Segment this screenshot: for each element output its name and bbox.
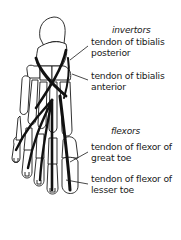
label-flexor-lesser-toe: tendon of flexor of lesser toe — [91, 174, 172, 195]
group-label-invertors: invertors — [112, 25, 150, 35]
label-tibialis-posterior: tendon of tibialis posterior — [91, 37, 165, 58]
label-flexor-lesser-toe-line2: lesser toe — [91, 185, 172, 196]
label-tibialis-anterior: tendon of tibialis anterior — [91, 71, 165, 92]
label-flexor-great-toe: tendon of flexor of great toe — [91, 142, 172, 163]
label-tibialis-posterior-line2: posterior — [91, 48, 165, 59]
label-flexor-great-toe-line2: great toe — [91, 153, 172, 164]
label-tibialis-anterior-line2: anterior — [91, 82, 165, 93]
label-tibialis-posterior-line1: tendon of tibialis — [91, 37, 165, 48]
label-flexor-great-toe-line1: tendon of flexor of — [91, 142, 172, 153]
label-tibialis-anterior-line1: tendon of tibialis — [91, 71, 165, 82]
group-label-flexors: flexors — [111, 126, 140, 136]
label-flexor-lesser-toe-line1: tendon of flexor of — [91, 174, 172, 185]
